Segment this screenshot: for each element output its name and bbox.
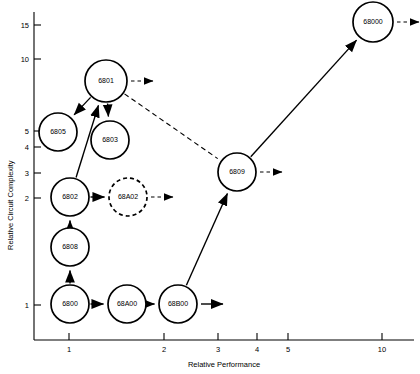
node-label: 6805 xyxy=(50,128,66,135)
edge-6801-to-6809 xyxy=(124,94,217,159)
chart-canvas: 151054321 1234510 Relative Circuit Compl… xyxy=(0,0,420,374)
y-tick-label: 4 xyxy=(25,143,29,152)
node-label: 6803 xyxy=(102,136,118,143)
y-axis-title: Relative Circuit Complexity xyxy=(6,160,15,250)
x-tick-label: 2 xyxy=(162,345,166,354)
node-6801[interactable]: 6801 xyxy=(85,60,127,102)
open-arrow-layer xyxy=(131,22,419,304)
node-6803[interactable]: 6803 xyxy=(91,121,129,159)
x-tick-label: 1 xyxy=(67,345,71,354)
node-6805[interactable]: 6805 xyxy=(39,113,77,151)
node-68A00[interactable]: 68A00 xyxy=(108,285,146,323)
node-label: 68000 xyxy=(363,18,383,25)
node-label: 68B00 xyxy=(168,300,188,307)
y-tick-label: 5 xyxy=(25,127,29,136)
node-6800[interactable]: 6800 xyxy=(51,285,89,323)
node-68B00[interactable]: 68B00 xyxy=(159,285,197,323)
y-tick-label: 2 xyxy=(25,194,29,203)
y-tick-label: 10 xyxy=(21,55,29,64)
node-68000[interactable]: 68000 xyxy=(353,2,393,42)
x-tick-label: 3 xyxy=(216,345,220,354)
node-6809[interactable]: 6809 xyxy=(218,153,256,191)
x-tick-label: 10 xyxy=(378,345,386,354)
y-tick-label: 15 xyxy=(21,21,29,30)
edge-68B00-to-6809 xyxy=(186,193,227,285)
x-axis-ticks: 1234510 xyxy=(67,333,386,354)
node-label: 68A00 xyxy=(117,300,137,307)
node-label: 6800 xyxy=(62,300,78,307)
node-6808[interactable]: 6808 xyxy=(51,228,89,266)
edge-6809-to-68000 xyxy=(251,40,357,157)
node-label: 6809 xyxy=(229,168,245,175)
x-axis-title: Relative Performance xyxy=(188,360,260,369)
node-label: 6801 xyxy=(98,77,114,84)
y-tick-label: 3 xyxy=(25,169,29,178)
node-label: 6802 xyxy=(62,193,78,200)
node-6802[interactable]: 6802 xyxy=(51,178,89,216)
node-68A02[interactable]: 68A02 xyxy=(109,178,147,216)
node-label: 68A02 xyxy=(118,193,138,200)
x-tick-label: 5 xyxy=(286,345,290,354)
edge-6801-to-6803 xyxy=(108,103,109,116)
x-tick-label: 4 xyxy=(255,345,259,354)
edge-6801-to-6805 xyxy=(74,97,90,115)
node-label: 6808 xyxy=(62,243,78,250)
y-tick-label: 1 xyxy=(25,301,29,310)
y-axis-ticks: 151054321 xyxy=(21,21,41,310)
processor-evolution-diagram: 151054321 1234510 Relative Circuit Compl… xyxy=(0,0,420,374)
node-layer: 680568016803680268A026808680068A0068B006… xyxy=(39,2,393,323)
